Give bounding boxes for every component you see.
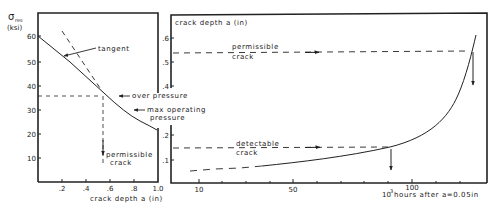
right-xtick: 10 xyxy=(195,186,204,194)
left-ytick: 20 xyxy=(27,131,36,139)
right-ytick: .5 xyxy=(162,59,169,67)
permissible-crack-hline xyxy=(173,51,470,53)
right-chart: crack depth a (in) .6 .5 .4 .2 .1 xyxy=(162,13,487,199)
ann-permissible-2: crack xyxy=(110,159,132,167)
left-xtick: .8 xyxy=(131,185,138,193)
left-xtick: 1.0 xyxy=(152,185,163,193)
left-ylabel-sub: res xyxy=(15,17,23,23)
crack-growth-curve xyxy=(262,35,476,166)
right-ytick: .2 xyxy=(162,132,169,140)
ann-max-operating-2: pressure xyxy=(150,114,185,122)
ann-over-pressure: over pressure xyxy=(132,92,188,100)
left-ytick: 10 xyxy=(27,155,36,163)
ann-right-permissible-1: permissible xyxy=(232,43,279,51)
left-xlabel: crack depth a (in) xyxy=(90,195,163,203)
left-xtick: .4 xyxy=(83,185,90,193)
right-xlabel-rest: hours after a=0.05in xyxy=(394,191,479,199)
left-ytick: 30 xyxy=(27,107,36,115)
left-ylabel-units: (ksi) xyxy=(7,24,22,32)
ann-right-detectable-1: detectable xyxy=(236,140,279,148)
right-ytick: .6 xyxy=(162,35,169,43)
ann-right-detectable-2: crack xyxy=(236,149,258,157)
left-xtick: .2 xyxy=(59,185,66,193)
left-xtick: .6 xyxy=(107,185,114,193)
crack-growth-curve-dashed xyxy=(190,166,262,171)
left-ytick: 60 xyxy=(27,33,36,41)
right-xlabel-exp: 3 xyxy=(390,188,393,194)
figure: σ res (ksi) 60 50 40 30 20 10 .2 .4 .6 .… xyxy=(0,0,492,211)
ann-permissible-1: permissible xyxy=(106,151,153,159)
left-chart: σ res (ksi) 60 50 40 30 20 10 .2 .4 .6 .… xyxy=(7,11,206,203)
ann-max-operating-1: max operating xyxy=(147,106,206,114)
right-xtick: 50 xyxy=(289,186,298,194)
left-ytick: 40 xyxy=(27,83,36,91)
left-ylabel-symbol: σ xyxy=(8,11,15,22)
right-chart-frame-bottom xyxy=(171,125,487,183)
right-ylabel: crack depth a (in) xyxy=(175,19,248,27)
left-ytick: 50 xyxy=(27,59,36,67)
detectable-crack-hline xyxy=(173,147,390,148)
tangent-pointer-arrow xyxy=(64,48,96,56)
right-ytick: .4 xyxy=(162,83,169,91)
ann-right-permissible-2: crack xyxy=(232,53,254,61)
ann-tangent: tangent xyxy=(98,45,130,53)
right-ytick: .1 xyxy=(162,157,169,165)
